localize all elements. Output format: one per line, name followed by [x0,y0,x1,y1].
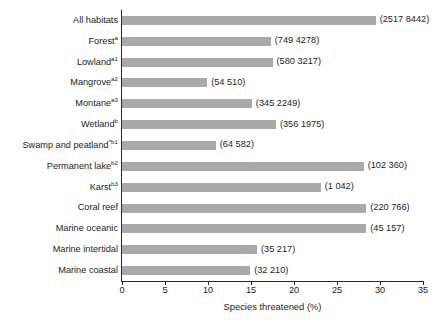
bar-row: Mangrovea2(54 510) [122,73,423,94]
x-axis-tick-label: 20 [289,286,299,295]
bar: (1 042) [122,183,321,192]
bar-value-label: (32 210) [254,266,288,275]
x-axis-tick-label: 10 [203,286,213,295]
x-axis: 05101520253035 Species threatened (%) [122,281,423,321]
category-label-superscript: a2 [111,75,118,82]
bar: (102 360) [122,162,364,171]
category-label: Lowlanda1 [77,58,118,67]
bar-value-label: (54 510) [211,78,245,87]
bar-row: Permanent lakeb2(102 360) [122,156,423,177]
bar: (749 4278) [122,37,271,46]
bar-row: Lowlanda1(580 3217) [122,52,423,73]
bar-value-label: (102 360) [368,162,407,171]
category-label: Foresta [89,37,119,46]
bar-value-label: (345 2249) [256,99,300,108]
category-label: All habitats [73,16,118,25]
category-label: Mangrovea2 [70,78,118,87]
category-label: Montanea3 [75,99,118,108]
category-label: Karstb3 [90,183,118,192]
bar-value-label: (64 582) [220,141,254,150]
bar-row: Swamp and peatland*b1(64 582) [122,135,423,156]
category-label-superscript: b3 [111,180,118,187]
category-label: Marine coastal [58,266,118,275]
category-label-superscript: a [115,34,118,41]
x-axis-tick-label: 25 [332,286,342,295]
x-axis-tick-label: 35 [418,286,428,295]
bar: (356 1975) [122,120,276,129]
category-label-superscript: b2 [111,159,118,166]
category-label: Permanent lakeb2 [47,162,118,171]
bar: (35 217) [122,245,257,254]
bar-row: Karstb3(1 042) [122,177,423,198]
x-axis-title: Species threatened (%) [122,301,423,312]
bar: (64 582) [122,141,216,150]
bar-value-label: (45 157) [370,224,404,233]
bar-value-label: (220 766) [370,203,409,212]
plot-area: All habitats(2517 8442)Foresta(749 4278)… [121,10,423,282]
bar: (580 3217) [122,58,273,67]
x-axis-tick-label: 30 [375,286,385,295]
bar: (54 510) [122,78,207,87]
bar-chart: All habitats(2517 8442)Foresta(749 4278)… [0,0,446,333]
bar-row: Foresta(749 4278) [122,31,423,52]
bar-row: Montanea3(345 2249) [122,93,423,114]
category-label-superscript: *b1 [109,138,118,145]
bar-value-label: (580 3217) [277,58,321,67]
bar-value-label: (1 042) [325,183,354,192]
bar-row: Marine coastal(32 210) [122,260,423,281]
bar-row: Coral reef(220 766) [122,198,423,219]
category-label: Swamp and peatland*b1 [22,141,118,150]
bar: (220 766) [122,204,366,213]
bar: (45 157) [122,224,366,233]
bar-value-label: (2517 8442) [380,16,430,25]
bar: (2517 8442) [122,16,376,25]
bar: (345 2249) [122,99,252,108]
x-axis-tick-label: 5 [162,286,167,295]
x-axis-tick-label: 15 [246,286,256,295]
category-label: Wetlandb [81,120,118,129]
category-label: Coral reef [78,203,118,212]
bar-value-label: (356 1975) [280,120,324,129]
bar-row: All habitats(2517 8442) [122,10,423,31]
x-axis-tick-label: 0 [119,286,124,295]
bar-row: Marine intertidal(35 217) [122,239,423,260]
category-label: Marine oceanic [56,224,118,233]
bar: (32 210) [122,266,250,275]
category-label-superscript: a1 [111,54,118,61]
bar-rows: All habitats(2517 8442)Foresta(749 4278)… [122,10,423,281]
bar-value-label: (749 4278) [275,37,319,46]
category-label-superscript: b [115,117,118,124]
bar-value-label: (35 217) [261,245,295,254]
category-label-superscript: a3 [111,96,118,103]
bar-row: Marine oceanic(45 157) [122,218,423,239]
bar-row: Wetlandb(356 1975) [122,114,423,135]
category-label: Marine intertidal [53,245,118,254]
